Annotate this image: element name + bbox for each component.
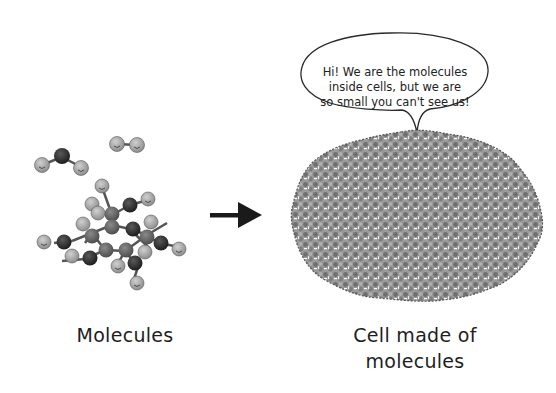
cell-label: Cell made of molecules bbox=[315, 322, 515, 374]
cell-label-line-2: molecules bbox=[315, 348, 515, 374]
bubble-line-3: so small you can't see us! bbox=[310, 95, 480, 110]
cell bbox=[283, 122, 551, 307]
molecule-cluster-icon bbox=[20, 125, 190, 305]
bubble-line-2: inside cells, but we are bbox=[310, 80, 480, 95]
arrow-right bbox=[208, 200, 262, 230]
speech-bubble: Hi! We are the molecules inside cells, b… bbox=[290, 25, 490, 135]
molecules-label: Molecules bbox=[40, 322, 210, 348]
arrow-right-icon bbox=[208, 200, 262, 230]
cell-label-line-1: Cell made of bbox=[315, 322, 515, 348]
cell-icon bbox=[283, 122, 551, 307]
bubble-line-1: Hi! We are the molecules bbox=[310, 65, 480, 80]
molecule-cluster bbox=[20, 125, 190, 305]
